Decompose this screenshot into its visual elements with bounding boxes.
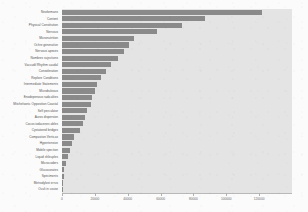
bar[interactable] <box>62 29 157 34</box>
bar[interactable] <box>62 56 118 61</box>
bars-container <box>62 9 292 193</box>
category-label: Consoleration <box>39 68 58 75</box>
bar[interactable] <box>62 16 205 21</box>
category-label: Cocos iodacenes ables <box>26 121 58 128</box>
bar[interactable] <box>62 102 91 107</box>
x-tick <box>62 193 63 196</box>
bar-row <box>62 29 292 36</box>
category-label: Glucocorates <box>40 167 58 174</box>
bar[interactable] <box>62 69 106 74</box>
bar-row <box>62 173 292 180</box>
bar[interactable] <box>62 82 97 87</box>
bar-row <box>62 35 292 42</box>
bar[interactable] <box>62 95 92 100</box>
bar[interactable] <box>62 121 83 126</box>
x-tick <box>226 193 227 196</box>
bar-row <box>62 81 292 88</box>
category-label: Intermediate Statements <box>24 81 58 88</box>
bar[interactable] <box>62 174 64 179</box>
category-label: Enodepenous radicalites <box>24 94 58 101</box>
bar-row <box>62 75 292 82</box>
category-label: Replore Conditions <box>31 75 58 82</box>
bar[interactable] <box>62 134 74 139</box>
category-label: Nervous apexes <box>35 48 58 55</box>
bar-row <box>62 127 292 134</box>
bar-row <box>62 186 292 193</box>
x-tick-label: 120000 <box>254 197 265 201</box>
bar[interactable] <box>62 36 134 41</box>
category-label: Oculi in couse <box>38 186 58 193</box>
x-tick-label: 40000 <box>123 197 132 201</box>
category-label: Microcoders <box>41 160 58 167</box>
category-label: Auros dispersion <box>35 114 58 121</box>
x-tick <box>95 193 96 196</box>
bar-row <box>62 94 292 101</box>
x-tick <box>193 193 194 196</box>
bar[interactable] <box>62 23 182 28</box>
bar-row <box>62 167 292 174</box>
category-label: Physical Constitution <box>29 22 58 29</box>
x-tick-label: 20000 <box>90 197 99 201</box>
bar[interactable] <box>62 154 68 159</box>
category-labels: NeoformansContentPhysical ConstitutionNe… <box>0 9 60 193</box>
x-tick-label: 0 <box>61 197 63 201</box>
bar[interactable] <box>62 180 63 185</box>
x-tick <box>259 193 260 196</box>
bar-row <box>62 114 292 121</box>
category-label: Nervous <box>46 29 58 36</box>
bar[interactable] <box>62 161 66 166</box>
bar[interactable] <box>62 128 80 133</box>
category-label: Micronutrition <box>39 35 58 42</box>
bar[interactable] <box>62 42 129 47</box>
bar-chart: NeoformansContentPhysical ConstitutionNe… <box>0 0 308 212</box>
category-label: Hypertensive <box>40 140 58 147</box>
bar[interactable] <box>62 62 111 67</box>
bar[interactable] <box>62 49 124 54</box>
category-label: Speciments <box>42 173 58 180</box>
bar[interactable] <box>62 108 87 113</box>
bar[interactable] <box>62 141 72 146</box>
bar[interactable] <box>62 187 63 192</box>
bar[interactable] <box>62 115 85 120</box>
bar[interactable] <box>62 148 70 153</box>
x-axis-line <box>62 193 292 194</box>
x-tick-label: 60000 <box>156 197 165 201</box>
bar-row <box>62 48 292 55</box>
x-tick-label: 80000 <box>189 197 198 201</box>
bar[interactable] <box>62 88 95 93</box>
bar[interactable] <box>62 75 101 80</box>
bar-row <box>62 140 292 147</box>
bar-row <box>62 22 292 29</box>
bar[interactable] <box>62 10 262 15</box>
bar-row <box>62 160 292 167</box>
x-tick <box>128 193 129 196</box>
bar-row <box>62 68 292 75</box>
bar-row <box>62 121 292 128</box>
bar[interactable] <box>62 167 64 172</box>
category-label: Cystatored bridges <box>32 127 58 134</box>
x-tick <box>161 193 162 196</box>
x-tick-label: 100000 <box>221 197 232 201</box>
